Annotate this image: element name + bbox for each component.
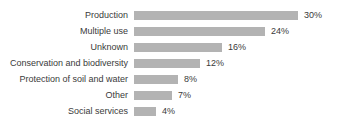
bar [134,91,172,100]
chart-row: Production 30% [0,7,338,23]
bar-value-label: 12% [200,58,224,68]
bar-value-label: 4% [156,106,175,116]
chart-row: Conservation and biodiversity 12% [0,55,338,71]
chart-row: Social services 4% [0,103,338,119]
chart-row: Unknown 16% [0,39,338,55]
bar [134,11,298,20]
bar-value-label: 7% [172,90,191,100]
category-label: Production [0,10,134,20]
bar-value-label: 30% [298,10,322,20]
bar-area: 12% [134,58,338,68]
bar-area: 7% [134,90,338,100]
bar-area: 8% [134,74,338,84]
bar [134,27,265,36]
bar-area: 24% [134,26,338,36]
chart-row: Protection of soil and water 8% [0,71,338,87]
bar [134,59,200,68]
category-label: Social services [0,106,134,116]
bar-value-label: 8% [178,74,197,84]
bar [134,75,178,84]
category-label: Protection of soil and water [0,74,134,84]
category-label: Other [0,90,134,100]
chart-row: Other 7% [0,87,338,103]
bar-area: 16% [134,42,338,52]
category-label: Conservation and biodiversity [0,58,134,68]
bar-area: 30% [134,10,338,20]
category-label: Multiple use [0,26,134,36]
horizontal-bar-chart: Production 30% Multiple use 24% Unknown … [0,0,338,124]
bar [134,43,222,52]
bar [134,107,156,116]
chart-rows: Production 30% Multiple use 24% Unknown … [0,7,338,119]
category-label: Unknown [0,42,134,52]
chart-row: Multiple use 24% [0,23,338,39]
bar-value-label: 16% [222,42,246,52]
bar-value-label: 24% [265,26,289,36]
bar-area: 4% [134,106,338,116]
